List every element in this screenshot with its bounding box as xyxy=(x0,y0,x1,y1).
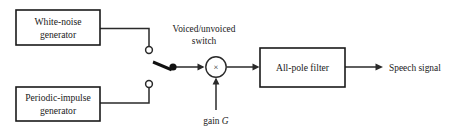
switch-arm[interactable] xyxy=(153,61,173,72)
gain-label: gain G xyxy=(203,116,229,126)
speech-model-diagram: White-noise generator Periodic-impulse g… xyxy=(0,0,452,133)
all-pole-filter-label: All-pole filter xyxy=(276,62,330,73)
white-noise-generator-label-line1: White-noise xyxy=(35,16,82,27)
voiced-unvoiced-switch-label-line1: Voiced/unvoiced xyxy=(173,24,236,34)
arrowhead-into-filter xyxy=(253,64,260,71)
voiced-unvoiced-switch[interactable] xyxy=(146,47,177,88)
white-noise-generator-label-line2: generator xyxy=(40,29,77,40)
arrowhead-into-multiplier xyxy=(198,64,205,71)
block-all-pole-filter[interactable]: All-pole filter xyxy=(260,48,345,87)
diagram-canvas: White-noise generator Periodic-impulse g… xyxy=(0,0,452,133)
block-periodic-impulse-generator[interactable]: Periodic-impulse generator xyxy=(16,87,100,121)
gain-label-symbol: G xyxy=(222,116,229,126)
switch-contact-lower[interactable] xyxy=(146,81,153,88)
block-white-noise-generator[interactable]: White-noise generator xyxy=(16,10,100,45)
arrowhead-output xyxy=(376,63,384,70)
switch-pivot-dot xyxy=(169,63,176,70)
wire-impulse-to-lower-contact xyxy=(100,88,149,104)
periodic-impulse-generator-label-line1: Periodic-impulse xyxy=(25,92,91,103)
switch-contact-upper[interactable] xyxy=(146,47,153,54)
speech-signal-output-label: Speech signal xyxy=(389,63,441,73)
voiced-unvoiced-switch-label-line2: switch xyxy=(192,36,217,46)
multiplier-node[interactable]: × xyxy=(206,57,226,77)
periodic-impulse-generator-label-line2: generator xyxy=(40,105,77,116)
wire-whitenoise-to-upper-contact xyxy=(100,29,149,47)
gain-label-text: gain xyxy=(203,116,219,126)
multiply-icon: × xyxy=(214,62,219,72)
arrowhead-gain-into-multiplier xyxy=(213,78,220,85)
